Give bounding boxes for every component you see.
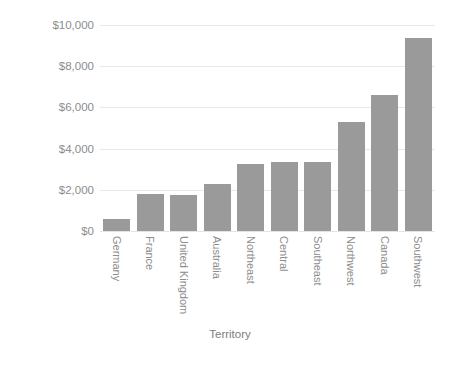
x-axis-tick-label-text: Southeast <box>312 236 324 286</box>
x-axis-tick-labels: GermanyFranceUnited KingdomAustraliaNort… <box>100 233 435 328</box>
y-axis-tick-label: $4,000 <box>59 143 94 155</box>
gridline <box>100 231 435 232</box>
bar-chart: Sales in thousands $0$2,000$4,000$6,000$… <box>0 0 460 368</box>
y-axis-tick-label: $6,000 <box>59 101 94 113</box>
bar[interactable] <box>304 162 331 231</box>
bar[interactable] <box>271 162 298 231</box>
x-axis-tick-label-text: France <box>144 236 156 270</box>
x-axis-tick-label-text: Northeast <box>245 236 257 284</box>
x-axis-tick-label-text: Germany <box>111 236 123 281</box>
x-axis-title-label: Territory <box>209 328 251 340</box>
x-axis-tick-label: Northeast <box>237 233 264 325</box>
x-axis-tick-label: Australia <box>204 233 231 325</box>
x-axis-tick-label: France <box>137 233 164 325</box>
bar-series <box>100 25 435 231</box>
x-axis-tick-label-text: Central <box>278 236 290 271</box>
y-axis-tick-label: $10,000 <box>52 19 94 31</box>
x-axis-tick-label: Canada <box>371 233 398 325</box>
x-axis-tick-label: Central <box>271 233 298 325</box>
bar[interactable] <box>338 122 365 231</box>
bar[interactable] <box>371 95 398 231</box>
x-axis-tick-label: Southwest <box>405 233 432 325</box>
bar[interactable] <box>237 164 264 231</box>
bar[interactable] <box>170 195 197 231</box>
bar[interactable] <box>137 194 164 231</box>
x-axis-tick-label-text: Canada <box>379 236 391 275</box>
x-axis-title: Territory <box>0 328 460 340</box>
plot-area <box>100 25 435 231</box>
x-axis-tick-label-text: Southwest <box>412 236 424 287</box>
y-axis-tick-label: $8,000 <box>59 60 94 72</box>
x-axis-tick-label-text: Northwest <box>345 236 357 286</box>
x-axis-tick-label-text: Australia <box>211 236 223 279</box>
bar[interactable] <box>204 184 231 231</box>
y-axis-tick-labels: $0$2,000$4,000$6,000$8,000$10,000 <box>0 25 94 231</box>
x-axis-tick-label: Southeast <box>304 233 331 325</box>
y-axis-tick-label: $2,000 <box>59 184 94 196</box>
bar[interactable] <box>103 219 130 231</box>
y-axis-tick-label: $0 <box>81 225 94 237</box>
bar[interactable] <box>405 38 432 231</box>
x-axis-tick-label: United Kingdom <box>170 233 197 325</box>
x-axis-tick-label-text: United Kingdom <box>178 236 190 314</box>
x-axis-tick-label: Germany <box>103 233 130 325</box>
x-axis-tick-label: Northwest <box>338 233 365 325</box>
